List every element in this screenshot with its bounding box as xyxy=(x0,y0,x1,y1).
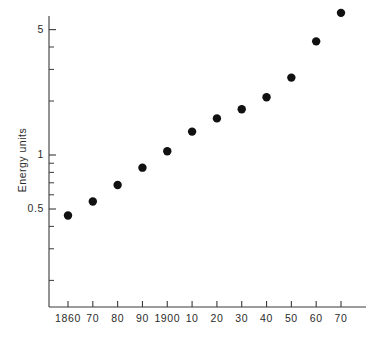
x-tick-label: 10 xyxy=(186,312,199,324)
x-tick-label: 20 xyxy=(210,312,223,324)
x-tick-label: 80 xyxy=(111,312,124,324)
data-point xyxy=(64,211,72,219)
data-point xyxy=(188,127,196,135)
y-axis-title: Energy units xyxy=(16,128,28,192)
x-tick-label: 70 xyxy=(335,312,348,324)
data-point xyxy=(163,147,171,155)
chart-background xyxy=(0,0,381,344)
x-tick-label: 90 xyxy=(136,312,149,324)
data-point xyxy=(138,163,146,171)
data-point xyxy=(213,114,221,122)
y-tick-label: 5 xyxy=(38,23,44,35)
x-tick-label: 30 xyxy=(235,312,248,324)
x-tick-label: 1900 xyxy=(154,312,180,324)
y-tick-label: 0.5 xyxy=(28,202,44,214)
data-point xyxy=(262,93,270,101)
data-point xyxy=(89,197,97,205)
data-point xyxy=(113,181,121,189)
x-tick-label: 50 xyxy=(285,312,298,324)
x-tick-label: 40 xyxy=(260,312,273,324)
data-point xyxy=(337,9,345,17)
data-point xyxy=(312,37,320,45)
data-point xyxy=(287,73,295,81)
energy-units-scatter-chart: 510.5 Energy units 186070809019001020304… xyxy=(0,0,381,344)
x-tick-label: 70 xyxy=(86,312,99,324)
y-tick-label: 1 xyxy=(38,148,44,160)
data-point xyxy=(238,105,246,113)
x-tick-label: 1860 xyxy=(55,312,81,324)
x-tick-label: 60 xyxy=(310,312,323,324)
